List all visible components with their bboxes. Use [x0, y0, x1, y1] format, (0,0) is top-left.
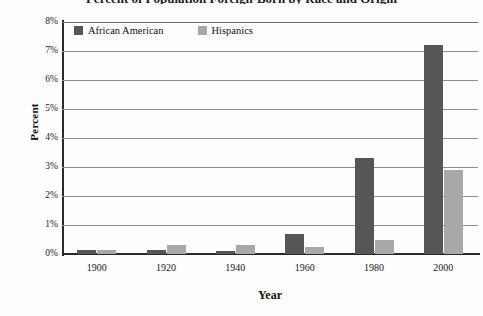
- y-axis-tick-label: 8%: [18, 16, 58, 26]
- legend-swatch-icon: [198, 26, 207, 35]
- chart-legend: African American Hispanics: [74, 25, 253, 36]
- gridline: [62, 225, 478, 226]
- bar: [236, 245, 255, 254]
- bar: [167, 245, 186, 254]
- y-axis-tick-label: 7%: [18, 45, 58, 55]
- y-axis-tick-label: 4%: [18, 132, 58, 142]
- gridline: [62, 196, 478, 197]
- gridline: [62, 138, 478, 139]
- legend-label: Hispanics: [212, 25, 253, 36]
- gridline: [62, 109, 478, 110]
- bar: [147, 250, 166, 254]
- x-axis-tick-label: 1900: [62, 262, 132, 273]
- chart-title: Percent of Population Foreign-Born by Ra…: [0, 0, 483, 4]
- legend-item-african-american: African American: [74, 25, 164, 36]
- y-axis-tick-label: 2%: [18, 190, 58, 200]
- bar: [305, 247, 324, 254]
- plot-area: [62, 22, 478, 254]
- y-axis-tick-label: 6%: [18, 74, 58, 84]
- gridline: [62, 80, 478, 81]
- bar: [424, 45, 443, 254]
- bar-chart-figure: Percent of Population Foreign-Born by Ra…: [0, 0, 483, 316]
- gridline: [62, 22, 478, 23]
- bar: [216, 251, 235, 254]
- bar: [285, 234, 304, 254]
- x-axis-tick-label: 1960: [270, 262, 340, 273]
- y-axis-tick-labels: 8%7%6%5%4%3%2%1%0%: [14, 22, 58, 254]
- gridline: [62, 167, 478, 168]
- legend-item-hispanics: Hispanics: [198, 25, 253, 36]
- y-axis-tick-label: 1%: [18, 219, 58, 229]
- y-axis-tick-label: 3%: [18, 161, 58, 171]
- legend-swatch-icon: [74, 26, 83, 35]
- x-axis-title: Year: [62, 288, 478, 303]
- bar: [355, 158, 374, 254]
- bar: [77, 250, 96, 254]
- gridline: [62, 51, 478, 52]
- x-axis-tick-label: 1920: [131, 262, 201, 273]
- x-axis-tick-label: 1940: [200, 262, 270, 273]
- x-axis-tick-label: 1980: [339, 262, 409, 273]
- y-axis-tick-label: 0%: [18, 248, 58, 258]
- x-axis-tick-label: 2000: [408, 262, 478, 273]
- bar: [375, 240, 394, 255]
- legend-label: African American: [88, 25, 164, 36]
- y-axis-tick-label: 5%: [18, 103, 58, 113]
- bar: [97, 250, 116, 254]
- bar: [444, 170, 463, 254]
